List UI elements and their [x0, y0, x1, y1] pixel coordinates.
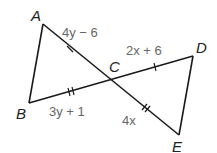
geometry-diagram: A B C D E 4y − 6 2x + 6 3y + 1 4x [0, 0, 217, 153]
segment-label-AC: 4y − 6 [62, 25, 98, 40]
segment-label-CD: 2x + 6 [126, 43, 162, 58]
point-label-A: A [30, 7, 41, 24]
segment-DE [179, 56, 193, 135]
point-label-B: B [16, 105, 26, 122]
point-label-E: E [172, 138, 183, 153]
segment-AB [29, 24, 43, 103]
segment-label-CE: 4x [122, 113, 136, 128]
point-label-C: C [109, 58, 120, 75]
point-label-D: D [196, 39, 207, 56]
segment-label-BC: 3y + 1 [49, 104, 85, 119]
